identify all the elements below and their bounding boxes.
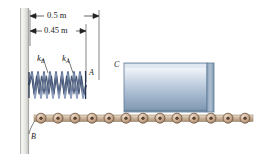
spring-assembly xyxy=(29,71,86,99)
spring-a-subscript: A xyxy=(66,58,69,64)
roller xyxy=(223,113,233,123)
figure-canvas xyxy=(0,0,272,162)
fixed-wall xyxy=(20,8,29,154)
dimension-label-0-5m: 0.5 m xyxy=(47,11,66,20)
roller xyxy=(155,113,165,123)
roller xyxy=(138,113,148,123)
roller xyxy=(172,113,182,123)
dimension-label-0-45m: 0.45 m xyxy=(44,26,68,35)
spring-a-label: kA xyxy=(62,48,69,64)
point-c-label: C xyxy=(114,61,119,69)
spring-b-label: kB xyxy=(37,48,44,64)
roller xyxy=(53,113,63,123)
roller xyxy=(104,113,114,123)
roller xyxy=(36,113,46,123)
sliding-block xyxy=(124,63,214,112)
point-b-label: B xyxy=(31,133,36,141)
roller xyxy=(240,113,250,123)
mechanics-figure: 0.5 m 0.45 m kB kA A B C xyxy=(0,0,272,162)
point-a-label: A xyxy=(89,69,94,77)
roller xyxy=(87,113,97,123)
roller xyxy=(70,113,80,123)
roller xyxy=(206,113,216,123)
spring-b-subscript: B xyxy=(41,58,44,64)
roller xyxy=(189,113,199,123)
roller xyxy=(121,113,131,123)
